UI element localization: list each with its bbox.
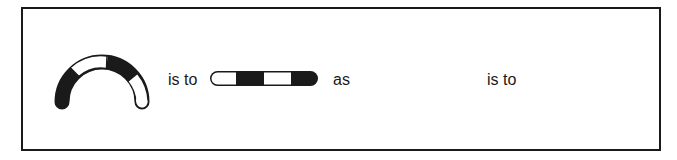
- connector-as: as: [333, 72, 350, 88]
- bar-figure-icon: [208, 69, 322, 89]
- arc-figure-icon: [40, 40, 165, 120]
- blank-term-4: [540, 60, 640, 100]
- connector-is-to-2: is to: [487, 72, 516, 88]
- blank-term-3: [375, 60, 475, 100]
- connector-is-to-1: is to: [168, 72, 197, 88]
